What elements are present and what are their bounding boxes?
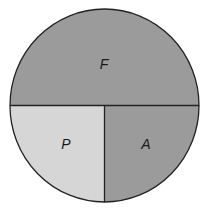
label-p: P <box>61 136 71 152</box>
region-p <box>10 106 105 203</box>
circle-diagram: F P A <box>0 0 207 211</box>
label-f: F <box>100 56 110 72</box>
region-a <box>105 106 200 203</box>
label-a: A <box>140 136 150 152</box>
